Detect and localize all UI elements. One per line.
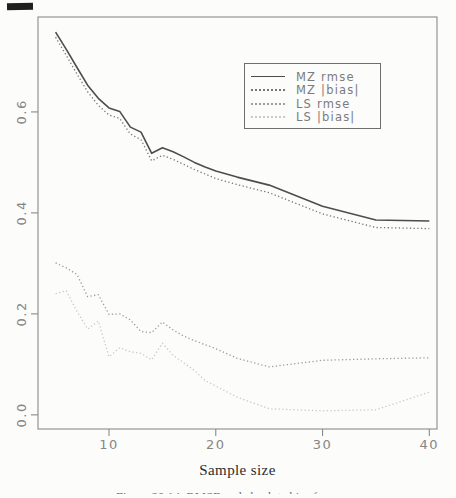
y-tick-label: 0.4	[14, 200, 29, 225]
y-tick-label: 0.6	[14, 99, 29, 124]
legend-line-sample-solid	[251, 76, 285, 77]
series-ls-bias	[56, 291, 430, 411]
legend-label: LS |bias|	[296, 110, 355, 124]
figure-page: 102030400.00.20.40.6 MZ rmse MZ |bias| L…	[0, 0, 456, 498]
x-tick-label: 20	[206, 437, 226, 452]
legend-item-mz-rmse: MZ rmse	[251, 70, 380, 84]
legend-item-mz-bias: MZ |bias|	[251, 84, 380, 98]
legend-item-ls-rmse: LS rmse	[251, 97, 380, 111]
legend: MZ rmse MZ |bias| LS rmse LS |bias|	[244, 63, 381, 129]
y-tick-label: 0.2	[14, 301, 29, 326]
chart-canvas: 102030400.00.20.40.6	[0, 0, 456, 456]
legend-label: LS rmse	[296, 97, 351, 111]
x-axis-label: Sample size	[19, 462, 456, 479]
legend-label: MZ |bias|	[296, 83, 360, 97]
x-tick-label: 30	[313, 437, 333, 452]
legend-item-ls-bias: LS |bias|	[251, 111, 380, 125]
legend-line-sample-dotted	[251, 89, 285, 91]
series-ls-rmse	[56, 263, 430, 367]
figure-caption-clipped: Figure 20.14: RMSE and absolute bias for…	[0, 487, 456, 494]
legend-line-sample-dotted	[251, 103, 285, 105]
legend-label: MZ rmse	[296, 70, 355, 84]
y-tick-label: 0.0	[14, 402, 29, 427]
x-tick-label: 40	[420, 437, 440, 452]
legend-line-sample-dotted	[251, 116, 285, 118]
x-tick-label: 10	[99, 437, 119, 452]
figure-caption-text: Figure 20.14: RMSE and absolute bias for…	[116, 490, 340, 494]
